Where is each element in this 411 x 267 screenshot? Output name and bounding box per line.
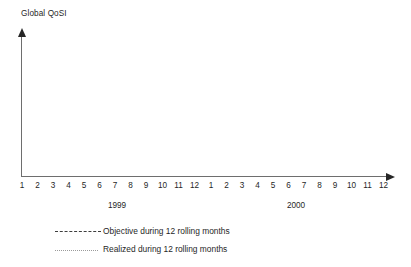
y-axis-title: Global QoSI	[21, 9, 67, 19]
x-axis-tick-labels: 123456789101112123456789101112	[21, 180, 389, 192]
legend-item-label: Realized during 12 rolling months	[103, 244, 227, 255]
y-axis-line	[21, 36, 22, 177]
legend-dashed-line-icon	[55, 231, 101, 234]
x-axis-tick-label: 12	[373, 180, 395, 191]
qosi-chart-figure: Global QoSI 1234567891011121234567891011…	[0, 0, 411, 267]
legend-item-label: Objective during 12 rolling months	[103, 226, 230, 237]
x-axis-year-label: 2000	[266, 200, 326, 211]
x-axis-line	[21, 176, 388, 177]
x-axis-year-label: 1999	[87, 200, 147, 211]
legend-dotted-line-icon	[55, 250, 98, 253]
arrow-up-icon	[18, 28, 26, 37]
